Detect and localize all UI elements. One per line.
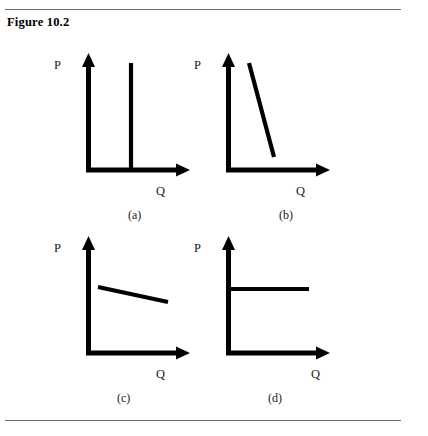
panel-d-y-axis-label: P (194, 242, 201, 255)
panel-b-y-axis (222, 53, 235, 170)
bottom-divider-rule (5, 420, 401, 421)
panel-b-x-axis-label: Q (296, 185, 305, 198)
panel-c-demand-curve (98, 287, 168, 302)
panel-c-caption: (c) (117, 392, 130, 404)
panel-a: P Q (a) (80, 48, 200, 188)
panel-d: P Q (d) (220, 231, 340, 371)
panel-c-x-axis-label: Q (156, 368, 165, 381)
panel-d-x-axis (226, 347, 330, 360)
panel-c: P Q (c) (80, 231, 200, 371)
panel-c-y-axis (82, 236, 95, 353)
figure-title: Figure 10.2 (7, 15, 69, 30)
panel-b-demand-curve (249, 63, 274, 157)
figure-page: Figure 10.2 P Q (a) (0, 0, 428, 436)
panel-b-x-axis (226, 164, 330, 177)
panel-d-caption: (d) (268, 392, 282, 404)
panel-a-x-axis (86, 164, 190, 177)
panel-b-y-axis-label: P (194, 59, 201, 72)
panel-a-x-axis-label: Q (156, 185, 165, 198)
top-divider-rule (5, 9, 401, 10)
panel-c-y-axis-label: P (54, 242, 61, 255)
panel-a-y-axis-label: P (54, 59, 61, 72)
panel-a-y-axis (82, 53, 95, 170)
panel-d-x-axis-label: Q (311, 368, 320, 381)
panel-a-caption: (a) (128, 209, 141, 221)
panel-d-y-axis (222, 236, 235, 353)
panel-b-caption: (b) (279, 209, 293, 221)
panel-c-x-axis (86, 347, 190, 360)
panel-b: P Q (b) (220, 48, 340, 188)
